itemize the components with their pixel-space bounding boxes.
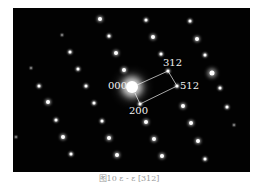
diffraction-spot xyxy=(144,120,148,124)
diffraction-spot xyxy=(114,51,118,55)
diffraction-pattern-image: 000 312 512 200 xyxy=(13,8,250,172)
diffraction-spot xyxy=(98,17,102,21)
diffraction-spot xyxy=(85,85,88,88)
diffraction-spot xyxy=(152,137,156,141)
label-200: 200 xyxy=(129,106,148,116)
diffraction-spot xyxy=(195,37,199,41)
diffraction-spot xyxy=(167,70,170,73)
diffraction-spot xyxy=(160,154,164,158)
diffraction-spot xyxy=(181,104,185,108)
diffraction-spot xyxy=(93,102,96,105)
diffraction-spot xyxy=(196,139,200,143)
diffraction-spot xyxy=(226,106,229,109)
diffraction-spot xyxy=(219,87,222,90)
label-512: 512 xyxy=(180,81,199,91)
diffraction-spot xyxy=(233,124,235,126)
diffraction-spot xyxy=(69,51,72,54)
diffraction-spot xyxy=(151,35,155,39)
diffraction-spot xyxy=(77,68,80,71)
diffraction-spot xyxy=(38,85,41,88)
diffraction-spot xyxy=(107,136,111,140)
diffraction-spot xyxy=(55,119,58,122)
diffraction-spot xyxy=(108,35,111,38)
figure-caption: 图10 ε - ε [312] xyxy=(0,174,258,182)
label-312: 312 xyxy=(163,58,182,68)
diffraction-spot xyxy=(139,103,142,106)
diffraction-spot xyxy=(145,19,148,22)
diffraction-spot xyxy=(176,85,179,88)
diffraction-spot xyxy=(160,53,163,56)
diffraction-spot xyxy=(70,153,73,156)
diffraction-spot xyxy=(61,34,63,36)
transmitted-beam-spot xyxy=(126,81,138,93)
diffraction-spot xyxy=(15,136,17,138)
diffraction-spot xyxy=(101,120,104,123)
diffraction-spot xyxy=(115,153,119,157)
label-000: 000 xyxy=(108,81,127,91)
diffraction-spot xyxy=(122,68,126,72)
diffraction-spot xyxy=(204,158,207,161)
diffraction-spot xyxy=(46,100,50,104)
diffraction-spot xyxy=(210,71,215,76)
diffraction-spot xyxy=(189,20,192,23)
diffraction-spot xyxy=(189,121,193,125)
diffraction-spot xyxy=(61,135,65,139)
diffraction-spot xyxy=(30,67,32,69)
diffraction-spot xyxy=(204,54,207,57)
